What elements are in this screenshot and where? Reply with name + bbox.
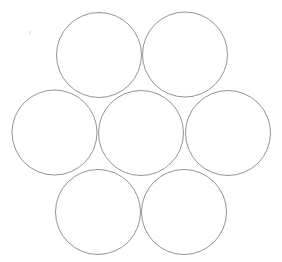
circle-packing-canvas xyxy=(0,0,282,262)
circle-bottom-right xyxy=(142,170,227,255)
circle-top-left xyxy=(57,13,142,98)
circle-top-right xyxy=(143,12,228,97)
circle-bottom-left xyxy=(56,170,141,255)
circle-packing-figure xyxy=(0,0,282,262)
circle-left xyxy=(12,90,97,175)
circle-right xyxy=(186,91,271,176)
circle-center xyxy=(99,91,184,176)
